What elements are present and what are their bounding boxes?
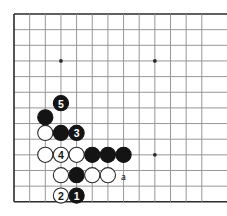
white-stone[interactable] bbox=[100, 168, 115, 183]
black-stone[interactable]: 5 bbox=[53, 96, 68, 111]
stone-disc bbox=[100, 147, 115, 162]
stone-disc bbox=[69, 168, 84, 183]
star-point bbox=[59, 59, 63, 63]
stone-disc bbox=[38, 110, 53, 125]
stone-disc bbox=[69, 125, 84, 140]
stone-disc bbox=[53, 147, 68, 162]
stone-disc bbox=[38, 125, 53, 140]
go-diagram-container: 53421 a bbox=[0, 0, 227, 216]
stone-disc bbox=[53, 168, 68, 183]
stone-disc bbox=[53, 188, 68, 203]
black-stone[interactable] bbox=[116, 147, 131, 162]
stone-disc bbox=[116, 147, 131, 162]
white-stone[interactable] bbox=[85, 168, 100, 183]
stone-disc bbox=[69, 188, 84, 203]
black-stone[interactable] bbox=[38, 110, 53, 125]
black-stone[interactable]: 1 bbox=[69, 188, 84, 203]
stone-disc bbox=[85, 168, 100, 183]
point-label-a: a bbox=[121, 170, 126, 182]
star-point bbox=[153, 153, 157, 157]
star-point bbox=[153, 59, 157, 63]
black-stone[interactable] bbox=[85, 147, 100, 162]
stone-disc bbox=[53, 96, 68, 111]
white-stone[interactable] bbox=[38, 147, 53, 162]
white-stone[interactable] bbox=[53, 168, 68, 183]
stone-disc bbox=[38, 147, 53, 162]
stone-disc bbox=[69, 147, 84, 162]
white-stone[interactable] bbox=[38, 125, 53, 140]
white-stone[interactable]: 2 bbox=[53, 188, 68, 203]
white-stone[interactable] bbox=[69, 147, 84, 162]
go-board[interactable]: 53421 a bbox=[0, 0, 227, 216]
stone-disc bbox=[53, 125, 68, 140]
white-stone[interactable]: 4 bbox=[53, 147, 68, 162]
black-stone[interactable] bbox=[69, 168, 84, 183]
stone-disc bbox=[100, 168, 115, 183]
black-stone[interactable]: 3 bbox=[69, 125, 84, 140]
black-stone[interactable] bbox=[100, 147, 115, 162]
stone-disc bbox=[85, 147, 100, 162]
black-stone[interactable] bbox=[53, 125, 68, 140]
point-labels-layer: a bbox=[121, 170, 126, 182]
